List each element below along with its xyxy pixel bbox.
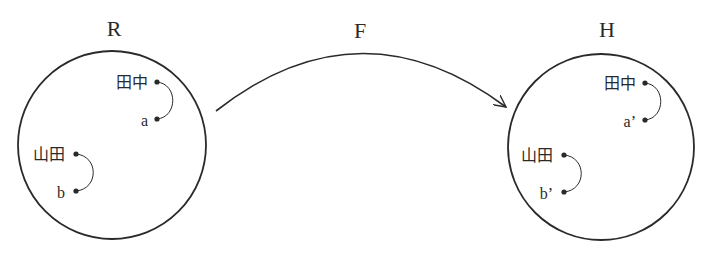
source-set-title: R: [107, 16, 122, 41]
mapping-label: F: [354, 18, 366, 43]
mapping-diagram: R 田中 a 山田 b F H: [0, 0, 717, 255]
correspondence-arc: [564, 155, 581, 192]
source-element-tanaka: 田中 a: [116, 74, 173, 129]
element-label: b’: [540, 185, 553, 202]
element-name: 山田: [521, 147, 553, 164]
source-set: R 田中 a 山田 b: [18, 16, 206, 239]
correspondence-arc: [157, 82, 173, 119]
element-label: a’: [624, 113, 636, 130]
element-dot: [73, 188, 78, 193]
target-element-yamada: 山田 b’: [521, 147, 581, 202]
element-name: 田中: [116, 74, 148, 91]
mapping-arrow: F: [216, 18, 506, 111]
element-dot: [154, 116, 159, 121]
element-dot: [642, 117, 647, 122]
correspondence-arc: [76, 154, 93, 191]
target-element-tanaka: 田中 a’: [604, 75, 661, 130]
target-set-title: H: [599, 17, 615, 42]
correspondence-arc: [645, 83, 661, 120]
element-label: b: [57, 184, 65, 201]
element-label: a: [141, 112, 148, 129]
source-set-circle: [18, 51, 206, 239]
arrow-icon: [216, 53, 506, 111]
element-dot: [561, 189, 566, 194]
source-element-yamada: 山田 b: [33, 146, 93, 201]
target-set: H 田中 a’ 山田 b’: [508, 17, 694, 240]
element-name: 田中: [604, 75, 636, 92]
element-name: 山田: [33, 146, 65, 163]
